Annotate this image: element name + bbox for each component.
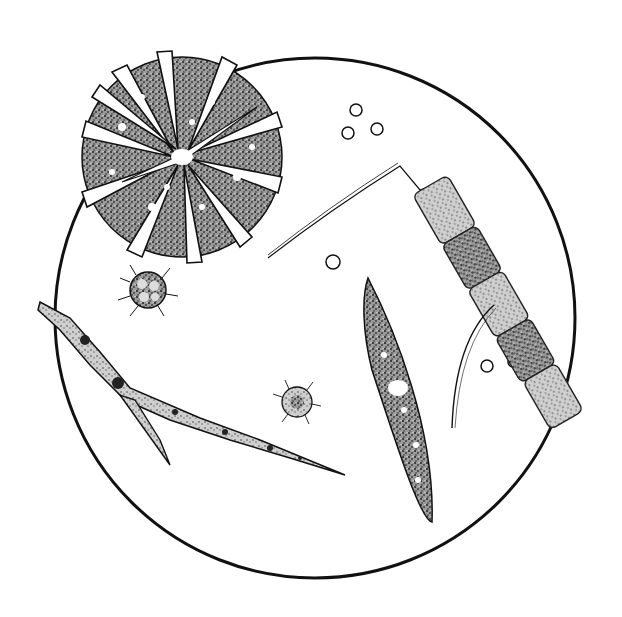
spiny-cyst-small-center: [273, 380, 321, 424]
spore-cluster-top: [342, 104, 383, 139]
spindle-cell-center: [364, 278, 432, 522]
microscope-illustration: [0, 0, 622, 617]
radial-desmid-colony: [82, 51, 282, 263]
filament-chain-right: [268, 163, 583, 431]
spiny-cyst-small-left: [118, 265, 178, 316]
spore-single-center: [326, 255, 340, 269]
